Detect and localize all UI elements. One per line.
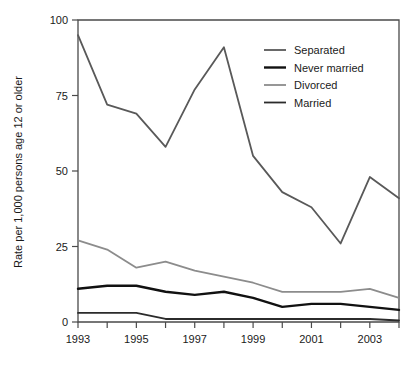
y-axis-ticks: 0255075100: [50, 14, 78, 328]
series-lines: [78, 35, 399, 320]
y-tick-label: 0: [62, 316, 68, 328]
x-tick-label: 1995: [124, 333, 148, 345]
y-axis-title: Rate per 1,000 persons age 12 or older: [12, 76, 24, 268]
x-tick-label: 1997: [182, 333, 206, 345]
series-line-divorced: [78, 240, 399, 297]
series-line-never-married: [78, 286, 399, 310]
legend-label: Never married: [294, 62, 364, 74]
x-tick-label: 2003: [358, 333, 382, 345]
series-line-married: [78, 313, 399, 321]
legend-label: Separated: [294, 44, 345, 56]
legend-label: Divorced: [294, 79, 337, 91]
y-tick-label: 50: [56, 165, 68, 177]
x-tick-label: 1993: [66, 333, 90, 345]
y-tick-label: 100: [50, 14, 68, 26]
x-tick-label: 2001: [299, 333, 323, 345]
y-tick-label: 25: [56, 241, 68, 253]
y-tick-label: 75: [56, 90, 68, 102]
legend-label: Married: [294, 97, 331, 109]
x-axis-ticks: 199319951997199920012003: [66, 322, 399, 345]
chart-legend: SeparatedNever marriedDivorcedMarried: [264, 44, 364, 109]
x-tick-label: 1999: [241, 333, 265, 345]
chart-canvas: Rate per 1,000 persons age 12 or older 0…: [0, 0, 413, 374]
line-chart: Rate per 1,000 persons age 12 or older 0…: [0, 0, 413, 374]
